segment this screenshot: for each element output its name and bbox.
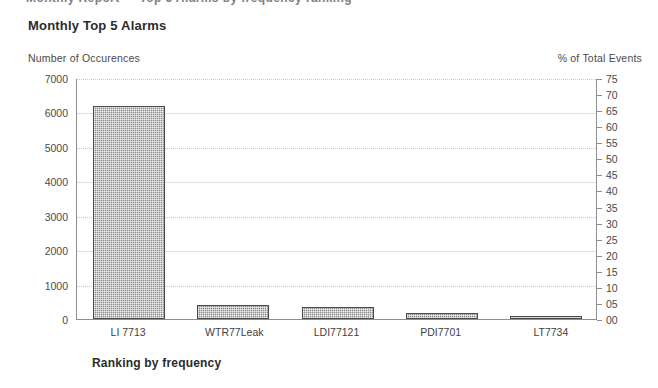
secondary-y-axis-tick-mark <box>597 79 602 80</box>
clipped-header-text: Monthly Report — Top 5 Alarms by frequen… <box>0 0 658 5</box>
y-axis-ticks: 01000200030004000500060007000 <box>10 79 68 320</box>
y-axis-tick-label: 1000 <box>45 280 68 292</box>
chart-title: Monthly Top 5 Alarms <box>28 18 166 33</box>
secondary-y-axis-tick-label: 10 <box>606 282 618 294</box>
y-axis-tick-label: 4000 <box>45 176 68 188</box>
plot-area <box>76 79 597 320</box>
secondary-y-axis-tick-mark <box>597 272 602 273</box>
secondary-y-axis-tick-mark <box>597 304 602 305</box>
bar <box>510 316 582 319</box>
secondary-y-axis-tick-label: 25 <box>606 234 618 246</box>
secondary-y-axis-tick-mark <box>597 127 602 128</box>
x-axis-tick-label: LDI77121 <box>314 326 360 338</box>
x-axis-ticks: LI 7713WTR77LeakLDI77121PDI7701LT7734 <box>76 326 597 344</box>
chart-page: Monthly Report — Top 5 Alarms by frequen… <box>0 0 658 388</box>
bar <box>302 307 374 319</box>
secondary-y-axis-tick-label: 75 <box>606 73 618 85</box>
bar <box>406 313 478 319</box>
secondary-y-axis-tick-label: 05 <box>606 298 618 310</box>
secondary-y-axis-tick-mark <box>597 95 602 96</box>
y-axis-tick-label: 3000 <box>45 211 68 223</box>
secondary-y-axis-tick-label: 35 <box>606 202 618 214</box>
gridline <box>77 79 596 80</box>
secondary-y-axis-tick-label: 50 <box>606 153 618 165</box>
secondary-y-axis-tick-mark <box>597 208 602 209</box>
secondary-y-axis-tick-mark <box>597 320 602 321</box>
secondary-y-axis-tick-mark <box>597 159 602 160</box>
secondary-y-axis-tick-label: 40 <box>606 185 618 197</box>
secondary-y-axis-tick-mark <box>597 143 602 144</box>
y-axis-tick-label: 7000 <box>45 73 68 85</box>
bar <box>197 305 269 319</box>
x-axis-tick-label: LI 7713 <box>111 326 146 338</box>
secondary-y-axis-tick-mark <box>597 191 602 192</box>
secondary-y-axis-tick-label: 45 <box>606 169 618 181</box>
secondary-y-axis-tick-label: 15 <box>606 266 618 278</box>
secondary-y-axis-tick-label: 00 <box>606 314 618 326</box>
x-axis-title: Ranking by frequency <box>92 356 221 370</box>
secondary-y-axis-tick-label: 20 <box>606 250 618 262</box>
y-axis-tick-label: 6000 <box>45 107 68 119</box>
secondary-y-axis-tick-mark <box>597 256 602 257</box>
secondary-y-axis-tick-label: 30 <box>606 218 618 230</box>
secondary-y-axis-tick-label: 70 <box>606 89 618 101</box>
y-axis-tick-label: 2000 <box>45 245 68 257</box>
secondary-y-axis-tick-label: 60 <box>606 121 618 133</box>
secondary-y-axis-ticks: 00051015202530354045505560657075 <box>597 79 657 320</box>
x-axis-tick-label: LT7734 <box>533 326 568 338</box>
bar <box>93 106 165 319</box>
y-axis-tick-label: 0 <box>62 314 68 326</box>
x-axis-tick-label: PDI7701 <box>420 326 461 338</box>
secondary-y-axis-label: % of Total Events <box>558 52 642 64</box>
secondary-y-axis-tick-label: 55 <box>606 137 618 149</box>
secondary-y-axis-tick-mark <box>597 175 602 176</box>
secondary-y-axis-tick-mark <box>597 240 602 241</box>
secondary-y-axis-tick-label: 65 <box>606 105 618 117</box>
secondary-y-axis-tick-mark <box>597 224 602 225</box>
secondary-y-axis-tick-mark <box>597 288 602 289</box>
secondary-y-axis-tick-mark <box>597 111 602 112</box>
y-axis-tick-label: 5000 <box>45 142 68 154</box>
x-axis-tick-label: WTR77Leak <box>205 326 263 338</box>
y-axis-label: Number of Occurences <box>28 52 140 64</box>
